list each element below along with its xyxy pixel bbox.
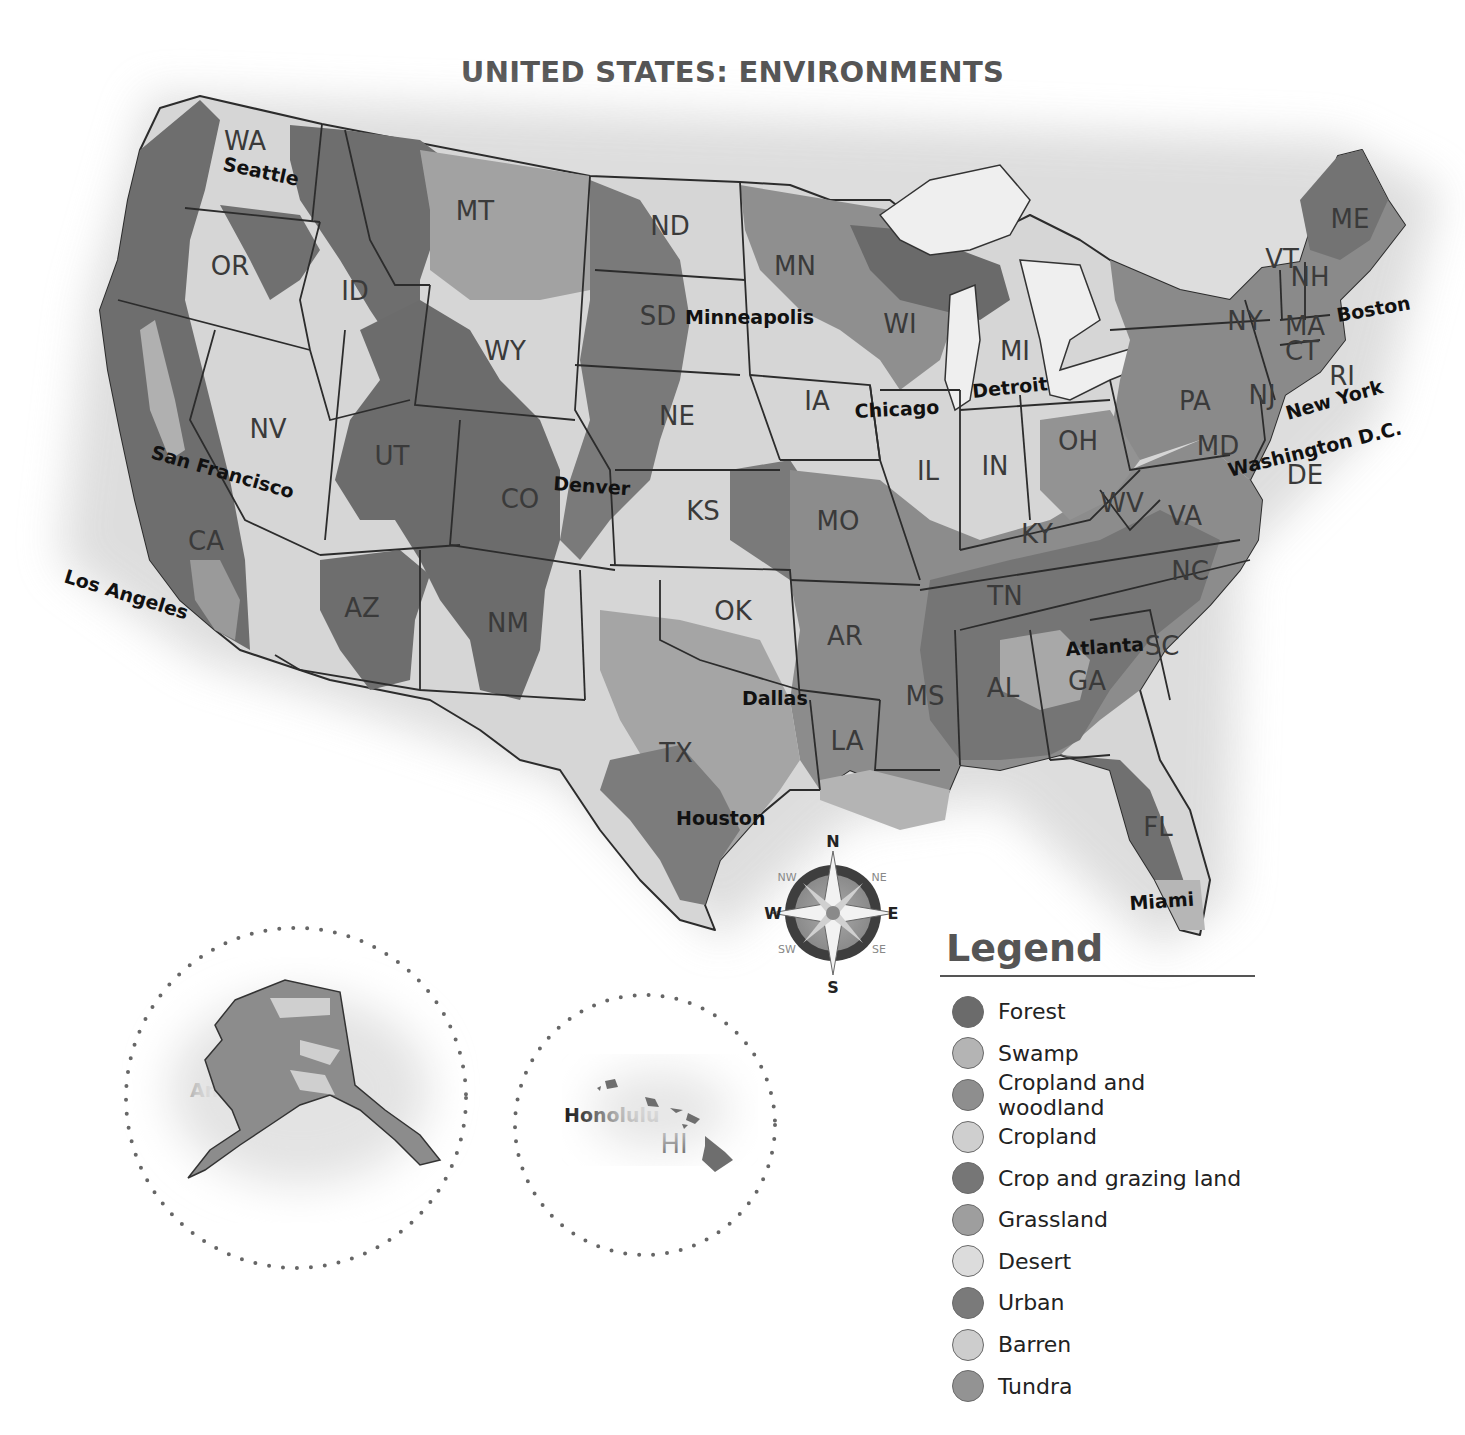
compass-s: S <box>827 978 839 997</box>
legend-item-crop-and-grazing-land: Crop and grazing land <box>940 1157 1255 1199</box>
compass-ne: NE <box>871 871 886 884</box>
state-label-la: LA <box>831 726 864 756</box>
legend-swatch-icon <box>952 996 984 1028</box>
compass-sw: SW <box>778 943 796 956</box>
state-label-ne: NE <box>659 401 695 431</box>
legend-label: Cropland and woodland <box>998 1070 1255 1120</box>
city-label-dallas: Dallas <box>742 687 808 709</box>
state-label-or: OR <box>211 251 250 281</box>
legend-swatch-icon <box>952 1037 984 1069</box>
legend-item-grassland: Grassland <box>940 1199 1255 1241</box>
city-label-chicago: Chicago <box>854 396 940 422</box>
legend-label: Cropland <box>998 1124 1097 1149</box>
compass-nw: NW <box>777 871 796 884</box>
hawaii-inset <box>515 995 775 1255</box>
legend-label: Desert <box>998 1249 1071 1274</box>
state-label-me: ME <box>1331 204 1370 234</box>
legend-label: Tundra <box>998 1374 1072 1399</box>
state-label-oh: OH <box>1058 426 1098 456</box>
state-label-nj: NJ <box>1248 380 1275 410</box>
state-label-wa: WA <box>224 126 266 156</box>
legend-label: Grassland <box>998 1207 1108 1232</box>
legend-item-swamp: Swamp <box>940 1033 1255 1075</box>
legend-swatch-icon <box>952 1121 984 1153</box>
state-label-nh: NH <box>1291 262 1330 292</box>
legend-divider <box>940 975 1255 977</box>
state-label-ga: GA <box>1068 666 1106 696</box>
compass-e: E <box>888 904 899 923</box>
legend-label: Urban <box>998 1290 1065 1315</box>
legend-swatch-icon <box>952 1287 984 1319</box>
state-label-sd: SD <box>640 301 677 331</box>
state-label-tx: TX <box>658 738 693 768</box>
state-label-mt: MT <box>456 196 494 226</box>
state-label-mi: MI <box>1000 336 1030 366</box>
legend-item-cropland-and-woodland: Cropland and woodland <box>940 1074 1255 1116</box>
legend-item-urban: Urban <box>940 1282 1255 1324</box>
state-label-ar: AR <box>827 621 863 651</box>
state-label-wv: WV <box>1100 488 1144 518</box>
legend-swatch-icon <box>952 1245 984 1277</box>
state-label-in: IN <box>981 451 1008 481</box>
state-label-fl: FL <box>1143 812 1173 842</box>
legend-swatch-icon <box>952 1204 984 1236</box>
legend-item-cropland: Cropland <box>940 1116 1255 1158</box>
state-label-co: CO <box>501 484 540 514</box>
state-label-ky: KY <box>1021 519 1053 549</box>
state-label-id: ID <box>341 276 369 306</box>
state-label-va: VA <box>1168 501 1202 531</box>
alaska-inset <box>126 928 466 1268</box>
state-label-ca: CA <box>188 526 224 556</box>
state-label-mo: MO <box>817 506 860 536</box>
compass-w: W <box>764 904 782 923</box>
legend-label: Forest <box>998 999 1066 1024</box>
state-label-ok: OK <box>714 596 752 626</box>
legend-swatch-icon <box>952 1079 984 1111</box>
state-label-mn: MN <box>774 251 816 281</box>
legend-swatch-icon <box>952 1329 984 1361</box>
legend-label: Swamp <box>998 1041 1079 1066</box>
legend-swatch-icon <box>952 1370 984 1402</box>
city-label-houston: Houston <box>676 807 765 829</box>
state-label-tn: TN <box>986 581 1022 611</box>
state-label-nv: NV <box>249 414 286 444</box>
state-label-ny: NY <box>1227 306 1262 336</box>
compass-se: SE <box>872 943 886 956</box>
state-label-nc: NC <box>1171 556 1209 586</box>
state-label-pa: PA <box>1179 386 1211 416</box>
legend-item-forest: Forest <box>940 991 1255 1033</box>
state-label-az: AZ <box>344 593 380 623</box>
legend-items: ForestSwampCropland and woodlandCropland… <box>940 991 1255 1407</box>
legend-label: Crop and grazing land <box>998 1166 1241 1191</box>
state-label-ms: MS <box>906 681 945 711</box>
state-label-ks: KS <box>686 496 720 526</box>
city-label-miami: Miami <box>1129 888 1195 914</box>
state-label-al: AL <box>987 673 1020 703</box>
state-label-nd: ND <box>650 211 689 241</box>
state-label-ct: CT <box>1285 336 1319 366</box>
state-label-il: IL <box>917 456 940 486</box>
state-label-wi: WI <box>883 309 916 339</box>
state-label-md: MD <box>1197 431 1239 461</box>
state-label-ia: IA <box>804 386 830 416</box>
state-label-ut: UT <box>375 441 410 471</box>
legend-item-barren: Barren <box>940 1324 1255 1366</box>
legend-item-tundra: Tundra <box>940 1365 1255 1407</box>
compass-n: N <box>826 832 839 851</box>
legend-label: Barren <box>998 1332 1071 1357</box>
legend-swatch-icon <box>952 1162 984 1194</box>
legend-item-desert: Desert <box>940 1241 1255 1283</box>
state-label-nm: NM <box>487 608 529 638</box>
state-label-wy: WY <box>484 336 526 366</box>
legend-title: Legend <box>940 925 1255 971</box>
city-label-minneapolis: Minneapolis <box>685 306 814 328</box>
legend: Legend ForestSwampCropland and woodlandC… <box>940 925 1255 1407</box>
state-label-sc: SC <box>1145 631 1180 661</box>
